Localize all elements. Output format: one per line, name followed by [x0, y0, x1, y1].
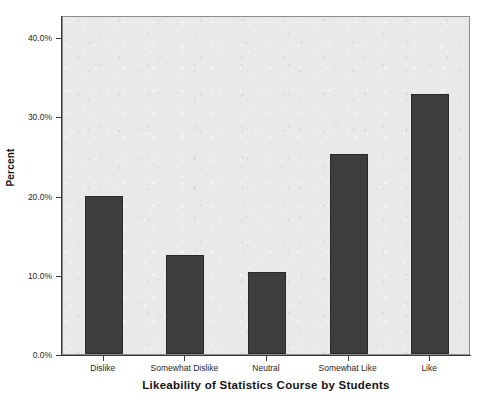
y-tick-label: 30.0%: [8, 112, 52, 122]
y-tick-mark: [56, 38, 61, 39]
x-tick-mark: [184, 356, 185, 361]
y-tick-mark: [56, 276, 61, 277]
y-tick-label: 40.0%: [8, 33, 52, 43]
y-tick-label: 20.0%: [8, 192, 52, 202]
x-tick-label: Neutral: [252, 363, 279, 373]
y-tick-label: 0.0%: [8, 350, 52, 360]
bar-somewhat-like: [330, 154, 368, 354]
y-tick-mark: [56, 117, 61, 118]
bar-somewhat-dislike: [166, 255, 204, 354]
y-tick-mark: [56, 197, 61, 198]
bar-like: [411, 94, 449, 354]
plot-area: [62, 16, 470, 355]
x-tick-label: Somewhat Dislike: [151, 363, 219, 373]
x-tick-mark: [103, 356, 104, 361]
bar-dislike: [85, 196, 123, 354]
x-tick-label: Dislike: [90, 363, 115, 373]
x-tick-mark: [266, 356, 267, 361]
y-tick-label: 10.0%: [8, 271, 52, 281]
x-tick-label: Somewhat Like: [319, 363, 377, 373]
bar-neutral: [248, 272, 286, 354]
x-tick-mark: [429, 356, 430, 361]
bar-chart: Percent 0.0%10.0%20.0%30.0%40.0% Dislike…: [0, 0, 487, 404]
x-tick-mark: [348, 356, 349, 361]
x-axis-title: Likeability of Statistics Course by Stud…: [62, 379, 470, 391]
x-tick-label: Like: [421, 363, 437, 373]
